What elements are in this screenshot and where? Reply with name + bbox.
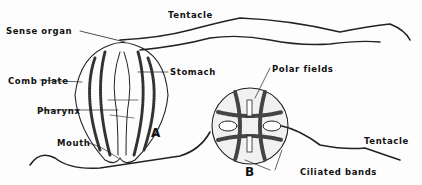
- label-view-b: B: [245, 165, 254, 179]
- label-pharynx: Pharynx: [37, 106, 80, 116]
- label-comb-plate: Comb plate: [8, 76, 69, 86]
- label-view-a: A: [151, 126, 160, 140]
- label-polar-fields: Polar fields: [272, 64, 334, 74]
- ctenophore-diagram: Sense organ Tentacle Stomach Comb plate …: [0, 0, 422, 185]
- label-tentacle-top: Tentacle: [168, 10, 213, 20]
- tentacle-upper-a: [120, 18, 410, 40]
- tentacle-upper-b: [140, 36, 380, 50]
- label-stomach: Stomach: [170, 67, 216, 77]
- label-sense-organ: Sense organ: [6, 26, 72, 36]
- label-mouth: Mouth: [57, 138, 90, 148]
- label-ciliated-bands: Ciliated bands: [300, 167, 377, 177]
- label-tentacle-right: Tentacle: [364, 136, 409, 146]
